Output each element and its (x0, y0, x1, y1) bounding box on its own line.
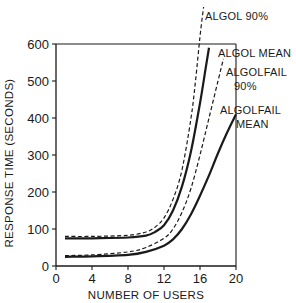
y-tick-label: 100 (27, 222, 49, 237)
y-tick-label: 200 (27, 185, 49, 200)
annotation-label: ALGOLFAIL (220, 104, 281, 116)
x-tick-label: 8 (124, 271, 131, 286)
series-algol-90 (65, 7, 204, 236)
y-axis: 0100200300400500600 (27, 37, 56, 274)
annotation-label: 90% (234, 80, 257, 92)
y-tick-label: 300 (27, 148, 49, 163)
annotation-label: ALGOL 90% (205, 10, 268, 22)
x-tick-label: 0 (52, 271, 59, 286)
y-axis-title: RESPONSE TIME (SECONDS) (3, 79, 15, 248)
y-tick-label: 0 (42, 259, 49, 274)
y-tick-label: 400 (27, 111, 49, 126)
y-tick-label: 500 (27, 74, 49, 89)
x-tick-label: 12 (157, 271, 171, 286)
x-tick-label: 4 (88, 271, 95, 286)
annotations: ALGOL 90%ALGOL MEANALGOLFAIL90%ALGOLFAIL… (205, 10, 291, 130)
annotation-label: MEAN (236, 118, 269, 130)
x-axis: 048121620 (52, 266, 243, 286)
annotation-label: ALGOLFAIL (226, 66, 287, 78)
annotation-label: ALGOL MEAN (218, 47, 291, 59)
x-tick-label: 20 (229, 271, 243, 286)
series-algolfail-90 (65, 59, 223, 256)
x-axis-title: NUMBER OF USERS (88, 289, 204, 301)
plot-frame (56, 44, 236, 266)
x-tick-label: 16 (193, 271, 207, 286)
response-time-chart: 0100200300400500600 048121620 ALGOL 90%A… (0, 0, 296, 303)
y-tick-label: 600 (27, 37, 49, 52)
